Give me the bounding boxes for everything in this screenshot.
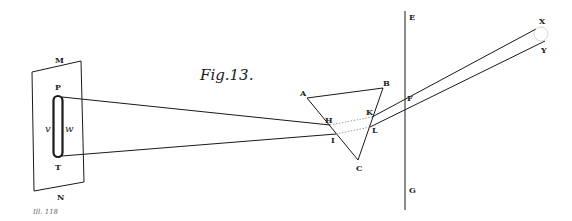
label-H: H <box>325 115 333 125</box>
label-I: I <box>331 135 335 145</box>
optics-diagram: Fig.13. M N P T v w A B C H I K L X Y E … <box>0 0 572 221</box>
label-Y: Y <box>540 45 547 55</box>
label-N: N <box>57 192 64 202</box>
label-C: C <box>356 163 362 173</box>
aperture-circle <box>534 27 548 41</box>
label-w: w <box>65 123 74 134</box>
label-v: v <box>45 123 51 134</box>
label-P: P <box>55 82 61 92</box>
ray-P-H <box>62 97 330 125</box>
illustration-caption: Ill. 118 <box>32 208 59 216</box>
ray-L-Y <box>370 41 545 127</box>
inner-ray-H-K <box>330 117 372 125</box>
label-F: F <box>407 93 413 103</box>
label-A: A <box>299 88 307 98</box>
ray-K-X <box>372 29 536 117</box>
label-E: E <box>409 12 415 22</box>
spectrum-slit <box>54 96 63 157</box>
label-T: T <box>55 162 61 172</box>
label-L: L <box>372 125 378 135</box>
figure-title: Fig.13. <box>199 66 253 84</box>
label-K: K <box>366 107 374 117</box>
label-X: X <box>539 16 546 26</box>
label-B: B <box>383 78 390 88</box>
label-M: M <box>55 55 64 65</box>
ray-T-I <box>62 134 336 156</box>
inner-ray-I-L <box>336 127 370 134</box>
label-G: G <box>409 185 416 195</box>
